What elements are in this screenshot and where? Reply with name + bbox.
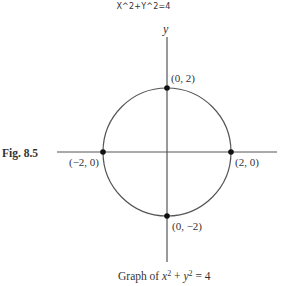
point-label: (0, −2) (172, 220, 202, 233)
point-marker (228, 149, 234, 155)
figure-number-label: Fig. 8.5 (2, 147, 38, 160)
point-marker (164, 213, 170, 219)
point-label: (0, 2) (171, 72, 195, 85)
point-label: (−2, 0) (69, 156, 99, 169)
caption-plus: + (171, 270, 183, 282)
caption-eq: = 4 (193, 270, 211, 282)
point-marker (100, 149, 106, 155)
point-marker (164, 85, 170, 91)
figure-stage: X^2+Y^2=4 (0, 2)(2, 0)(−2, 0)(0, −2) y F… (0, 0, 287, 286)
graph-caption: Graph of x2 + y2 = 4 (118, 269, 211, 283)
circle-graph: (0, 2)(2, 0)(−2, 0)(0, −2) y Fig. 8.5 Gr… (0, 0, 287, 286)
y-axis-label: y (162, 22, 169, 36)
point-label: (2, 0) (235, 156, 259, 169)
caption-prefix: Graph of (118, 270, 162, 283)
